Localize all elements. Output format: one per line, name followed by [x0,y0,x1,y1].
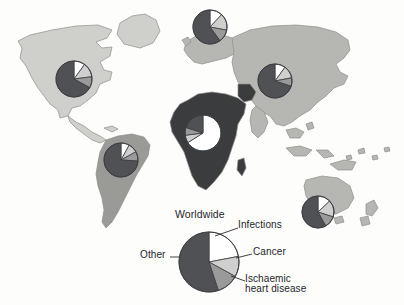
legend-title-worldwide: Worldwide [175,209,225,220]
legend-label-other: Other [140,250,166,260]
legend-label-cancer: Cancer [253,247,286,257]
legend-label-infections: Infections [238,220,282,230]
legend-label-ischaemic: Ischaemic heart disease [245,274,306,294]
world-map-pie-figure: Worldwide Infections Cancer Ischaemic he… [0,0,404,305]
legend-block: Worldwide Infections Cancer Ischaemic he… [0,0,404,305]
